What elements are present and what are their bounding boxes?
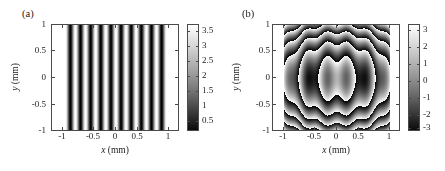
panel-a-ytick-0 (51, 24, 55, 25)
panel-b-ytick-1 (272, 50, 276, 51)
panel-b-xtick-top-1 (314, 24, 315, 28)
panel-b-ytick-2 (272, 77, 276, 78)
panel-a-ctick-5 (188, 106, 190, 107)
panel-b-ytick-r-4 (396, 130, 400, 131)
panel-a-clabel-0: 3.5 (202, 25, 213, 35)
panel-b-yticklabel-0: 1 (240, 19, 270, 29)
panel-a-ctick-1 (188, 46, 190, 47)
panel-a-colorbar (187, 24, 199, 131)
panel-b-yaxis-var: y (231, 87, 241, 91)
panel-b-ctick-0 (409, 30, 411, 31)
panel-a-colorbar-gradient (188, 25, 198, 130)
panel-a-ctick-2 (188, 61, 190, 62)
panel-b-ctick-r-6 (417, 128, 419, 129)
panel-b-xtick-top-4 (389, 24, 390, 28)
panel-a-xaxis-title: x (mm) (101, 145, 129, 155)
panel-b-ctick-2 (409, 64, 411, 65)
panel-a-clabel-4: 1.5 (202, 85, 213, 95)
panel-a-ctick-3 (188, 76, 190, 77)
panel-a-yticklabel-1: 0.5 (16, 45, 46, 55)
panel-a-ctick-r-4 (196, 91, 198, 92)
panel-a-ctick-0 (188, 31, 190, 32)
panel-a-yaxis-title: y (mm) (10, 63, 20, 91)
panel-a-ytick-3 (51, 104, 55, 105)
panel-b-ctick-1 (409, 47, 411, 48)
panel-a-ytick-4 (51, 130, 55, 131)
panel-b-ctick-r-0 (417, 30, 419, 31)
panel-a-label: (a) (22, 8, 34, 19)
panel-b-ctick-6 (409, 128, 411, 129)
panel-a-ctick-r-2 (196, 61, 198, 62)
panel-a-xtick-top-4 (168, 24, 169, 28)
panel-a-xticklabel-3: 0.5 (131, 131, 142, 141)
panel-a-clabel-3: 2 (202, 70, 207, 80)
panel-b-ytick-r-1 (396, 50, 400, 51)
panel-a-ytick-r-4 (175, 130, 179, 131)
panel-b-xticklabel-4: 1 (387, 131, 392, 141)
panel-b-clabel-3: 0 (423, 75, 428, 85)
panel-a-ytick-1 (51, 50, 55, 51)
panel-a-yticklabel-3: -0.5 (16, 99, 46, 109)
panel-b-ytick-4 (272, 130, 276, 131)
panel-a-xtick-top-3 (137, 24, 138, 28)
panel-b-ctick-3 (409, 81, 411, 82)
panel-b-ctick-5 (409, 115, 411, 116)
panel-b-yticklabel-3: -0.5 (240, 99, 270, 109)
panel-b-xticklabel-1: -0.5 (307, 131, 321, 141)
panel-a-ctick-4 (188, 91, 190, 92)
panel-a-xticklabel-4: 1 (166, 131, 171, 141)
panel-b-yticklabel-1: 0.5 (240, 45, 270, 55)
panel-b-yaxis-unit: (mm) (231, 63, 241, 84)
panel-a-xticklabel-0: -1 (58, 131, 66, 141)
panel-b-xtick-top-3 (358, 24, 359, 28)
panel-b-xtick-top-0 (283, 24, 284, 28)
panel-b-xaxis-unit: (mm) (329, 145, 350, 155)
panel-b-clabel-6: -3 (423, 122, 431, 132)
panel-a-ytick-r-0 (175, 24, 179, 25)
panel-b-colorbar (408, 24, 420, 131)
panel-b-image (273, 25, 400, 131)
panel-b-clabel-1: 2 (423, 41, 428, 51)
panel-b-xticklabel-3: 0.5 (352, 131, 363, 141)
panel-a-plot-area (51, 24, 179, 131)
panel-b-clabel-2: 1 (423, 58, 428, 68)
panel-a-yticklabel-4: -1 (16, 125, 46, 135)
panel-a-ytick-2 (51, 77, 55, 78)
panel-a-xtick-top-2 (115, 24, 116, 28)
panel-b-ctick-r-3 (417, 81, 419, 82)
panel-b-xticklabel-2: 0 (334, 131, 339, 141)
panel-b-plot-area (272, 24, 400, 131)
panel-a-ytick-r-3 (175, 104, 179, 105)
panel-b-ctick-r-1 (417, 47, 419, 48)
panel-a: (a) -1 -0.5 0 0.5 1 1 0.5 0 (0, 0, 222, 171)
panel-b-ytick-r-3 (396, 104, 400, 105)
panel-b-ytick-3 (272, 104, 276, 105)
panel-b-xaxis-var: x (322, 145, 326, 155)
panel-b-yaxis-title: y (mm) (231, 63, 241, 91)
panel-b-label: (b) (242, 8, 254, 19)
panel-b-ctick-4 (409, 98, 411, 99)
panel-a-xticklabel-1: -0.5 (86, 131, 100, 141)
panel-a-xtick-top-1 (93, 24, 94, 28)
panel-a-ctick-6 (188, 121, 190, 122)
panel-b-ytick-r-2 (396, 77, 400, 78)
panel-a-image (52, 25, 179, 131)
panel-b-clabel-0: 3 (423, 24, 428, 34)
panel-a-ctick-r-3 (196, 76, 198, 77)
panel-b-yticklabel-4: -1 (240, 125, 270, 135)
panel-b: (b) -1 -0.5 0 0.5 1 1 0.5 0 -0.5 (222, 0, 445, 171)
panel-b-ctick-r-2 (417, 64, 419, 65)
panel-a-clabel-2: 2.5 (202, 55, 213, 65)
panel-a-yticklabel-2: 0 (16, 72, 46, 82)
panel-b-xtick-top-2 (336, 24, 337, 28)
panel-b-yticklabel-2: 0 (240, 72, 270, 82)
panel-a-xaxis-var: x (101, 145, 105, 155)
figure-container: (a) -1 -0.5 0 0.5 1 1 0.5 0 (0, 0, 445, 171)
panel-a-yaxis-var: y (10, 87, 20, 91)
panel-a-yticklabel-0: 1 (16, 19, 46, 29)
panel-a-ctick-r-0 (196, 31, 198, 32)
panel-a-clabel-1: 3 (202, 40, 207, 50)
panel-b-ctick-r-5 (417, 115, 419, 116)
panel-a-xtick-top-0 (62, 24, 63, 28)
panel-b-xticklabel-0: -1 (279, 131, 287, 141)
